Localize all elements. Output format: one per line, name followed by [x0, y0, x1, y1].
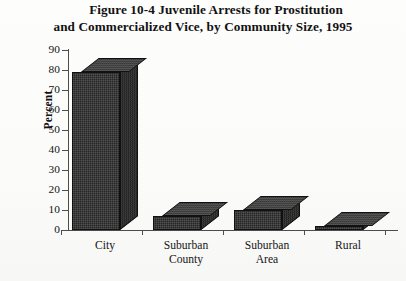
- bar: [234, 196, 300, 230]
- bar: [153, 202, 219, 230]
- y-axis-tick: [62, 190, 68, 191]
- x-axis-category-label-line: City: [58, 239, 152, 253]
- y-axis-tick: [62, 230, 68, 231]
- y-axis-tick: [62, 70, 68, 71]
- x-axis-tick: [223, 230, 224, 235]
- y-axis-tick: [62, 50, 68, 51]
- bar-chart: Percent 0102030405060708090 CitySuburban…: [0, 0, 406, 281]
- y-axis-tick-label: 80: [26, 64, 60, 75]
- y-axis-tick: [62, 210, 68, 211]
- x-axis-tick: [61, 230, 62, 235]
- y-axis-tick-label: 30: [26, 164, 60, 175]
- x-axis-tick: [304, 230, 305, 235]
- y-axis-tick-label: 50: [26, 124, 60, 135]
- y-axis-tick: [62, 110, 68, 111]
- x-axis-category-label-line: County: [139, 253, 233, 267]
- y-axis-tick: [62, 170, 68, 171]
- x-axis-tick: [142, 230, 143, 235]
- y-axis-tick-label: 60: [26, 104, 60, 115]
- x-axis-category-label-line: Suburban: [220, 239, 314, 253]
- y-axis-tick-label: 70: [26, 84, 60, 95]
- x-axis-category-label: SuburbanCounty: [139, 239, 233, 267]
- bar-front-face: [72, 72, 120, 230]
- x-axis-category-label: City: [58, 239, 152, 253]
- y-axis-tick: [62, 130, 68, 131]
- x-axis-category-label: Rural: [301, 239, 395, 253]
- bar-front-face: [234, 210, 282, 230]
- y-axis-tick-label: 90: [26, 44, 60, 55]
- y-axis-tick-label: 20: [26, 184, 60, 195]
- x-axis-category-label-line: Rural: [301, 239, 395, 253]
- y-axis-tick-label: 40: [26, 144, 60, 155]
- y-axis-tick-label: 10: [26, 204, 60, 215]
- bar-side-face: [120, 58, 138, 230]
- figure-page: Figure 10-4 Juvenile Arrests for Prostit…: [0, 0, 406, 281]
- x-axis-tick: [385, 230, 386, 235]
- bar-front-face: [153, 216, 201, 230]
- bar-front-face: [315, 226, 363, 230]
- y-axis-tick: [62, 90, 68, 91]
- y-axis-tick: [62, 150, 68, 151]
- bar: [315, 212, 381, 230]
- x-axis-baseline: [61, 230, 398, 231]
- x-axis-category-label: SuburbanArea: [220, 239, 314, 267]
- x-axis-category-label-line: Suburban: [139, 239, 233, 253]
- bar: [72, 58, 138, 230]
- x-axis-category-label-line: Area: [220, 253, 314, 267]
- y-axis-tick-label: 0: [26, 224, 60, 235]
- bar-top-face: [324, 212, 390, 226]
- y-axis-line: [68, 49, 69, 231]
